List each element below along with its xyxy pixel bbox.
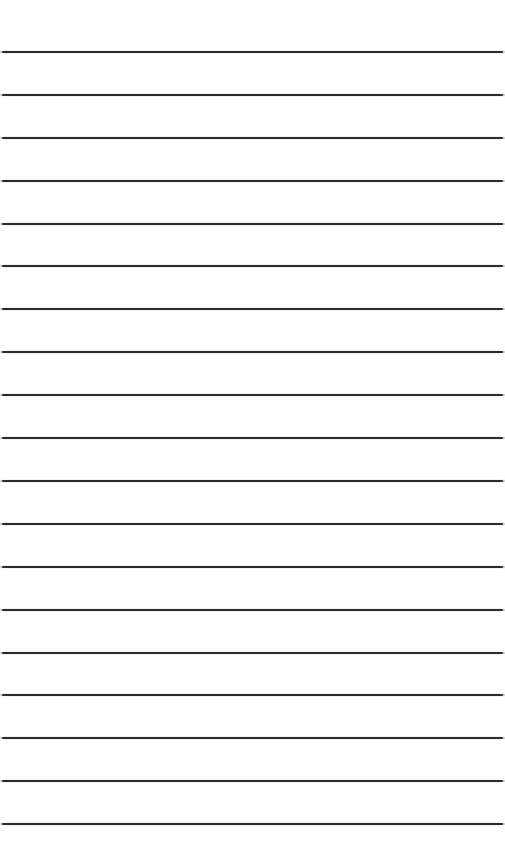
ruled-line [2, 566, 503, 568]
ruled-line [2, 652, 503, 654]
ruled-line [2, 780, 503, 782]
ruled-line [2, 180, 503, 182]
ruled-line [2, 308, 503, 310]
ruled-line [2, 265, 503, 267]
lined-paper [0, 0, 505, 867]
ruled-line [2, 437, 503, 439]
ruled-line [2, 51, 503, 53]
ruled-line [2, 223, 503, 225]
ruled-line [2, 394, 503, 396]
ruled-line [2, 137, 503, 139]
ruled-line [2, 523, 503, 525]
ruled-line [2, 480, 503, 482]
ruled-line [2, 609, 503, 611]
ruled-line [2, 351, 503, 353]
ruled-line [2, 823, 503, 825]
ruled-line [2, 737, 503, 739]
ruled-line [2, 694, 503, 696]
ruled-line [2, 94, 503, 96]
